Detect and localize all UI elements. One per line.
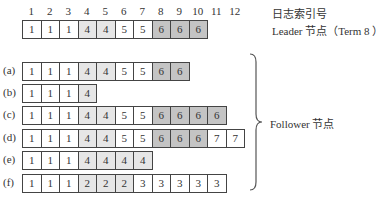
log-entry-term-6: 6 <box>152 20 172 39</box>
brace-icon <box>248 52 268 192</box>
log-entry-term-6: 6 <box>170 20 190 39</box>
log-entry-term-3: 3 <box>170 174 190 193</box>
leader-log: 1114455666 <box>22 20 208 37</box>
log-entry-term-2: 2 <box>115 174 135 193</box>
log-entry-term-6: 6 <box>152 129 172 148</box>
log-entry-term-3: 3 <box>207 174 227 193</box>
follower-row-label: (e) <box>3 150 15 169</box>
log-entry-term-5: 5 <box>115 62 135 81</box>
log-entry-term-4: 4 <box>78 84 98 103</box>
log-entry-term-1: 1 <box>59 129 79 148</box>
log-entry-term-4: 4 <box>115 151 135 170</box>
index-header-label: 日志索引号 <box>272 5 327 21</box>
log-entry-term-5: 5 <box>115 106 135 125</box>
log-entry-term-4: 4 <box>78 129 98 148</box>
log-entry-term-1: 1 <box>59 84 79 103</box>
log-entry-term-6: 6 <box>152 106 172 125</box>
log-entry-term-6: 6 <box>189 129 209 148</box>
log-index-6: 6 <box>115 5 134 17</box>
log-index-11: 11 <box>207 5 226 17</box>
log-entry-term-5: 5 <box>133 129 153 148</box>
log-index-3: 3 <box>59 5 78 17</box>
log-entry-term-1: 1 <box>59 174 79 193</box>
follower-row-label: (d) <box>3 128 16 147</box>
log-entry-term-1: 1 <box>22 106 42 125</box>
log-index-5: 5 <box>96 5 115 17</box>
log-entry-term-4: 4 <box>96 20 116 39</box>
log-index-1: 1 <box>22 5 41 17</box>
log-entry-term-5: 5 <box>133 106 153 125</box>
follower-row-label: (f) <box>3 173 14 192</box>
log-entry-term-3: 3 <box>133 174 153 193</box>
log-entry-term-4: 4 <box>78 151 98 170</box>
log-entry-term-1: 1 <box>59 151 79 170</box>
log-entry-term-1: 1 <box>22 129 42 148</box>
follower-log-f: 11122233333 <box>22 174 227 191</box>
log-entry-term-1: 1 <box>41 106 61 125</box>
log-entry-term-2: 2 <box>78 174 98 193</box>
log-entry-term-1: 1 <box>22 151 42 170</box>
log-entry-term-4: 4 <box>96 62 116 81</box>
follower-log-b: 1114 <box>22 84 97 101</box>
log-entry-term-4: 4 <box>78 106 98 125</box>
log-entry-term-1: 1 <box>59 106 79 125</box>
log-entry-term-4: 4 <box>133 151 153 170</box>
log-entry-term-6: 6 <box>152 62 172 81</box>
log-entry-term-1: 1 <box>41 151 61 170</box>
log-entry-term-5: 5 <box>133 62 153 81</box>
follower-log-e: 1114444 <box>22 151 153 168</box>
log-entry-term-1: 1 <box>41 129 61 148</box>
log-entry-term-6: 6 <box>170 106 190 125</box>
log-entry-term-1: 1 <box>41 62 61 81</box>
log-index-8: 8 <box>152 5 171 17</box>
log-entry-term-1: 1 <box>22 20 42 39</box>
log-entry-term-6: 6 <box>189 106 209 125</box>
log-index-7: 7 <box>133 5 152 17</box>
log-entry-term-1: 1 <box>22 84 42 103</box>
log-entry-term-3: 3 <box>152 174 172 193</box>
log-entry-term-1: 1 <box>22 62 42 81</box>
log-entry-term-2: 2 <box>96 174 116 193</box>
follower-log-c: 11144556666 <box>22 106 227 123</box>
log-entry-term-5: 5 <box>115 20 135 39</box>
log-entry-term-3: 3 <box>189 174 209 193</box>
log-entry-term-6: 6 <box>170 62 190 81</box>
follower-log-d: 111445566677 <box>22 129 245 146</box>
log-entry-term-1: 1 <box>41 20 61 39</box>
log-entry-term-6: 6 <box>170 129 190 148</box>
log-entry-term-1: 1 <box>41 84 61 103</box>
log-entry-term-4: 4 <box>78 20 98 39</box>
log-entry-term-7: 7 <box>226 129 246 148</box>
log-index-4: 4 <box>78 5 97 17</box>
log-entry-term-5: 5 <box>115 129 135 148</box>
log-entry-term-1: 1 <box>59 62 79 81</box>
log-entry-term-1: 1 <box>59 20 79 39</box>
log-entry-term-6: 6 <box>207 106 227 125</box>
log-index-9: 9 <box>170 5 189 17</box>
follower-log-a: 111445566 <box>22 62 190 79</box>
log-entry-term-4: 4 <box>96 129 116 148</box>
log-index-12: 12 <box>226 5 245 17</box>
log-index-10: 10 <box>189 5 208 17</box>
log-entry-term-7: 7 <box>207 129 227 148</box>
log-entry-term-6: 6 <box>189 20 209 39</box>
leader-label: Leader 节点（Term 8 ） <box>272 22 380 38</box>
log-entry-term-1: 1 <box>22 174 42 193</box>
log-entry-term-4: 4 <box>96 106 116 125</box>
log-entry-term-5: 5 <box>133 20 153 39</box>
log-index-2: 2 <box>41 5 60 17</box>
log-entry-term-4: 4 <box>78 62 98 81</box>
follower-row-label: (a) <box>3 61 15 80</box>
follower-row-label: (c) <box>3 105 15 124</box>
log-entry-term-4: 4 <box>96 151 116 170</box>
follower-label: Follower 节点 <box>270 115 334 131</box>
log-entry-term-1: 1 <box>41 174 61 193</box>
follower-row-label: (b) <box>3 83 16 102</box>
